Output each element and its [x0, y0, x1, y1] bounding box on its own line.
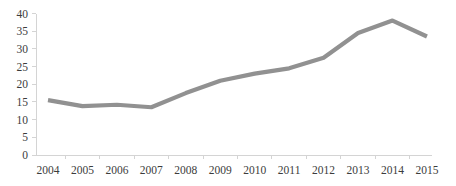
y-tick-label: 25 [17, 61, 29, 73]
x-tick-label: 2015 [415, 164, 438, 176]
x-tick-label: 2008 [174, 164, 197, 176]
x-axis-ticks [65, 155, 410, 159]
x-axis-tick-labels: 2004200520062007200820092010201120122013… [37, 164, 439, 176]
plot-area [48, 21, 427, 108]
y-tick-label: 30 [17, 43, 29, 55]
y-tick-label: 40 [17, 8, 29, 20]
x-tick-label: 2012 [312, 164, 335, 176]
x-tick-label: 2007 [140, 164, 163, 176]
x-axis: 2004200520062007200820092010201120122013… [36, 155, 439, 176]
x-tick-label: 2010 [243, 164, 266, 176]
y-tick-label: 0 [22, 149, 28, 161]
y-tick-label: 10 [17, 114, 29, 126]
y-axis: 0510152025303540 [17, 8, 37, 162]
y-axis-ticks [32, 14, 36, 156]
y-tick-label: 35 [17, 25, 29, 37]
data-series-line [48, 21, 427, 108]
x-tick-label: 2004 [37, 164, 60, 176]
y-tick-label: 20 [17, 78, 29, 90]
y-tick-label: 15 [17, 96, 29, 108]
x-tick-label: 2011 [278, 164, 301, 176]
x-tick-label: 2009 [209, 164, 232, 176]
x-tick-label: 2005 [71, 164, 94, 176]
y-axis-tick-labels: 0510152025303540 [17, 8, 29, 162]
x-tick-label: 2013 [347, 164, 370, 176]
chart-canvas: 0510152025303540 20042005200620072008200… [0, 0, 456, 186]
y-tick-label: 5 [22, 131, 28, 143]
x-tick-label: 2014 [381, 164, 404, 176]
line-chart: 0510152025303540 20042005200620072008200… [0, 0, 456, 186]
x-tick-label: 2006 [105, 164, 128, 176]
